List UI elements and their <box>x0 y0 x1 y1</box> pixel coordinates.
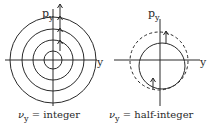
right-caption: νy = half-integer <box>109 109 194 123</box>
left-y-axis-label: y <box>96 56 104 69</box>
right-ellipse-solid <box>139 43 185 89</box>
left-py-axis-label: py <box>42 7 54 22</box>
right-panel-half-integer-tune <box>114 19 200 106</box>
right-ellipse-dashed <box>130 32 188 90</box>
left-caption: νy = integer <box>18 109 80 123</box>
right-py-axis-label: py <box>148 7 160 22</box>
phase-space-diagram: py y νy = integer py y νy = half-integer <box>0 0 211 131</box>
right-y-axis-label: y <box>199 56 207 69</box>
